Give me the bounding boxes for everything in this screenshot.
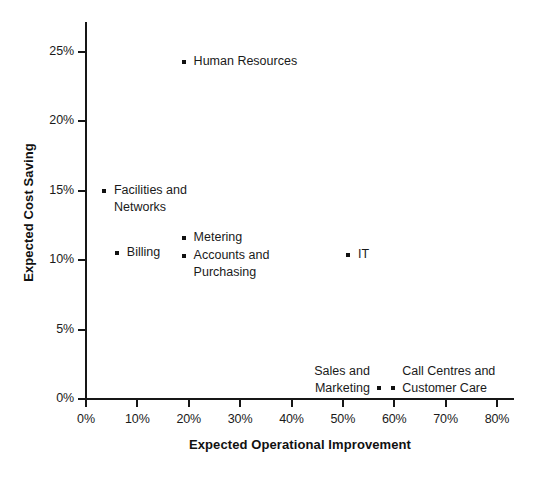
x-tick-label: 50% [320, 412, 366, 426]
x-tick-mark [342, 400, 344, 407]
data-point-label: Billing [127, 244, 160, 261]
y-tick-label: 10% [32, 252, 74, 266]
data-point-marker[interactable] [182, 254, 186, 258]
data-point-label: Facilities and Networks [114, 182, 187, 216]
y-tick-mark [78, 329, 85, 331]
x-tick-mark [291, 400, 293, 407]
data-point-marker[interactable] [115, 251, 119, 255]
data-point-label: Human Resources [194, 53, 298, 70]
x-tick-mark [188, 400, 190, 407]
y-axis-line [85, 22, 87, 400]
y-tick-mark [78, 398, 85, 400]
x-tick-mark [445, 400, 447, 407]
y-tick-label: 0% [32, 391, 74, 405]
y-tick-mark [78, 259, 85, 261]
x-tick-mark [136, 400, 138, 407]
y-tick-mark [78, 190, 85, 192]
data-point-label: Sales and Marketing [314, 363, 370, 397]
y-tick-mark [78, 120, 85, 122]
x-tick-mark [393, 400, 395, 407]
data-point-marker[interactable] [346, 253, 350, 257]
x-tick-label: 70% [423, 412, 469, 426]
y-tick-label: 20% [32, 113, 74, 127]
data-point-marker[interactable] [391, 386, 395, 390]
x-tick-label: 60% [371, 412, 417, 426]
x-axis-line [85, 398, 514, 400]
x-tick-label: 20% [166, 412, 212, 426]
data-point-label: Call Centres and Customer Care [402, 363, 495, 397]
data-point-marker[interactable] [377, 386, 381, 390]
x-tick-mark [239, 400, 241, 407]
data-point-label: IT [358, 246, 369, 263]
y-tick-label: 15% [32, 183, 74, 197]
y-tick-label: 5% [32, 322, 74, 336]
x-axis-title: Expected Operational Improvement [85, 437, 515, 452]
data-point-label: Metering [194, 229, 243, 246]
data-point-marker[interactable] [182, 60, 186, 64]
data-point-marker[interactable] [102, 189, 106, 193]
data-point-label: Accounts and Purchasing [194, 247, 270, 281]
data-point-marker[interactable] [182, 236, 186, 240]
y-tick-mark [78, 51, 85, 53]
scatter-chart-figure: 0%5%10%15%20%25% 0%10%20%30%40%50%60%70%… [0, 0, 550, 478]
y-axis-title: Expected Cost Saving [21, 123, 36, 303]
x-tick-mark [496, 400, 498, 407]
x-tick-label: 10% [114, 412, 160, 426]
y-tick-label: 25% [32, 44, 74, 58]
x-tick-label: 40% [269, 412, 315, 426]
x-tick-label: 0% [63, 412, 109, 426]
x-tick-label: 80% [474, 412, 520, 426]
x-tick-label: 30% [217, 412, 263, 426]
x-tick-mark [85, 400, 87, 407]
